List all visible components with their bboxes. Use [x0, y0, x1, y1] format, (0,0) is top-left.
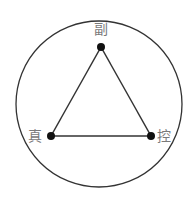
node-right-label: 控	[157, 129, 171, 143]
node-top-dot	[97, 43, 105, 51]
edge-top-right	[101, 47, 151, 136]
node-right-dot	[147, 132, 155, 140]
triangle-circle-diagram: 副 真 控	[0, 0, 196, 205]
node-left-dot	[47, 132, 55, 140]
edge-top-left	[51, 47, 101, 136]
node-left-label: 真	[28, 129, 42, 143]
node-top-label: 副	[94, 22, 108, 36]
